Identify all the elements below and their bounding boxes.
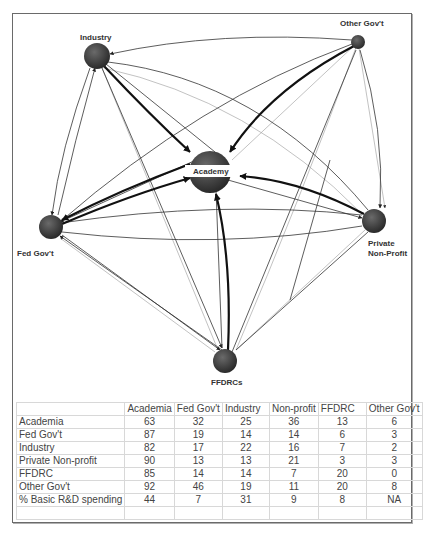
table-cell: 3 bbox=[318, 455, 366, 468]
table-cell: 82 bbox=[125, 442, 174, 455]
table-cell: 0 bbox=[366, 468, 422, 481]
table-cell: 87 bbox=[125, 429, 174, 442]
table-cell: 3 bbox=[366, 455, 422, 468]
table-cell: 14 bbox=[222, 429, 269, 442]
table-cell: 92 bbox=[125, 481, 174, 494]
table-cell: 19 bbox=[222, 481, 269, 494]
table-row-empty bbox=[17, 507, 423, 520]
table-cell: 20 bbox=[318, 481, 366, 494]
table-cell: 90 bbox=[125, 455, 174, 468]
table-cell: 22 bbox=[222, 442, 269, 455]
table-cell: 14 bbox=[174, 468, 222, 481]
table-row: Fed Gov't 87 19 14 14 6 3 bbox=[17, 429, 423, 442]
table-cell: 6 bbox=[366, 416, 422, 429]
node-industry bbox=[84, 43, 110, 69]
table-cell: 14 bbox=[222, 468, 269, 481]
label-nonprofit: Non-Profit bbox=[368, 249, 407, 259]
table-cell: 6 bbox=[318, 429, 366, 442]
label-industry: Industry bbox=[80, 33, 112, 43]
row-label: Industry bbox=[17, 442, 125, 455]
node-other-govt bbox=[351, 35, 365, 49]
table-cell: 3 bbox=[366, 429, 422, 442]
label-fed-govt: Fed Gov't bbox=[17, 249, 54, 259]
table-cell: 7 bbox=[174, 494, 222, 507]
edges-bold bbox=[62, 46, 364, 350]
node-private-nonprofit bbox=[362, 209, 386, 233]
label-private: Private bbox=[368, 239, 395, 249]
node-ffdrcs bbox=[213, 349, 237, 373]
header-cell: Non-profit bbox=[269, 403, 318, 416]
row-label: % Basic R&D spending bbox=[17, 494, 125, 507]
label-ffdrcs: FFDRCs bbox=[211, 378, 243, 388]
table-cell: 14 bbox=[269, 429, 318, 442]
table-header-row: Academia Fed Gov't Industry Non-profit F… bbox=[17, 403, 423, 416]
table-cell: 8 bbox=[366, 481, 422, 494]
label-academy: Academy bbox=[193, 167, 229, 177]
header-cell bbox=[17, 403, 125, 416]
table-cell: 7 bbox=[318, 442, 366, 455]
table-row: Academia 63 32 25 36 13 6 bbox=[17, 416, 423, 429]
table-cell: 85 bbox=[125, 468, 174, 481]
table-cell: 36 bbox=[269, 416, 318, 429]
table-cell: 20 bbox=[318, 468, 366, 481]
table-cell: 11 bbox=[269, 481, 318, 494]
table-cell: 17 bbox=[174, 442, 222, 455]
table-cell: 7 bbox=[269, 468, 318, 481]
header-cell: Industry bbox=[222, 403, 269, 416]
row-label: Private Non-profit bbox=[17, 455, 125, 468]
table-cell: 8 bbox=[318, 494, 366, 507]
header-cell: Fed Gov't bbox=[174, 403, 222, 416]
table-cell: 13 bbox=[174, 455, 222, 468]
header-cell: Other Gov't bbox=[366, 403, 422, 416]
header-cell: FFDRC bbox=[318, 403, 366, 416]
table-cell: NA bbox=[366, 494, 422, 507]
row-label: Fed Gov't bbox=[17, 429, 125, 442]
table-cell: 31 bbox=[222, 494, 269, 507]
table-cell: 32 bbox=[174, 416, 222, 429]
table-row: FFDRC 85 14 14 7 20 0 bbox=[17, 468, 423, 481]
table-cell: 13 bbox=[222, 455, 269, 468]
table-cell: 13 bbox=[318, 416, 366, 429]
table-cell: 44 bbox=[125, 494, 174, 507]
table-cell: 2 bbox=[366, 442, 422, 455]
table-row: Private Non-profit 90 13 13 21 3 3 bbox=[17, 455, 423, 468]
collaboration-table: Academia Fed Gov't Industry Non-profit F… bbox=[16, 402, 423, 520]
table-row: % Basic R&D spending 44 7 31 9 8 NA bbox=[17, 494, 423, 507]
row-label: Academia bbox=[17, 416, 125, 429]
table-cell: 21 bbox=[269, 455, 318, 468]
table-row: Other Gov't 92 46 19 11 20 8 bbox=[17, 481, 423, 494]
table-cell: 63 bbox=[125, 416, 174, 429]
row-label: Other Gov't bbox=[17, 481, 125, 494]
table-cell: 46 bbox=[174, 481, 222, 494]
table-cell: 25 bbox=[222, 416, 269, 429]
table-cell: 9 bbox=[269, 494, 318, 507]
row-label: FFDRC bbox=[17, 468, 125, 481]
label-other-govt: Other Gov't bbox=[340, 19, 384, 29]
node-fed-govt bbox=[39, 215, 63, 239]
table-cell: 16 bbox=[269, 442, 318, 455]
table-cell: 19 bbox=[174, 429, 222, 442]
table-row: Industry 82 17 22 16 7 2 bbox=[17, 442, 423, 455]
header-cell: Academia bbox=[125, 403, 174, 416]
